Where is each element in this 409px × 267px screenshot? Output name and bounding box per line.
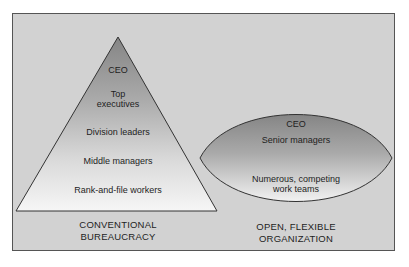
- lens-caption: OPEN, FLEXIBLE ORGANIZATION: [256, 221, 335, 244]
- lens-level-work-teams-line2: work teams: [273, 184, 319, 194]
- pyramid-level-ceo: CEO: [108, 65, 128, 75]
- lens-caption-line2: ORGANIZATION: [256, 233, 335, 245]
- diagram-shapes: [0, 0, 409, 267]
- pyramid-level-top-executives-line1: Top: [111, 89, 126, 99]
- pyramid-level-rank-and-file: Rank-and-file workers: [74, 185, 162, 195]
- pyramid-level-division-leaders: Division leaders: [86, 127, 150, 137]
- pyramid-caption: CONVENTIONAL BUREAUCRACY: [79, 219, 156, 242]
- pyramid-level-top-executives-line2: executives: [97, 99, 140, 109]
- lens-caption-line1: OPEN, FLEXIBLE: [256, 221, 335, 233]
- pyramid-caption-line1: CONVENTIONAL: [79, 219, 156, 231]
- pyramid-level-middle-managers: Middle managers: [83, 156, 152, 166]
- lens-level-work-teams-line1: Numerous, competing: [252, 174, 340, 184]
- lens-level-senior-managers: Senior managers: [262, 135, 331, 145]
- lens-level-ceo: CEO: [286, 119, 306, 129]
- pyramid-caption-line2: BUREAUCRACY: [79, 231, 156, 243]
